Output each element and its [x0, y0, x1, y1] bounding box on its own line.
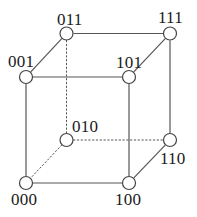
vertex-label-101: 101: [116, 54, 142, 71]
vertex-label-011: 011: [57, 11, 82, 28]
vertex-label-010: 010: [72, 118, 98, 135]
cube-edges: [26, 34, 170, 184]
cube-vertex-100: [123, 177, 136, 190]
cube-vertex-001: [20, 71, 33, 84]
vertex-label-100: 100: [115, 191, 141, 208]
cube-vertex-000: [20, 177, 33, 190]
vertex-label-110: 110: [160, 150, 185, 167]
cube-edge-011-001: [31, 39, 62, 72]
binary-cube-figure: 011111001101010110000100: [0, 0, 197, 217]
cube-vertex-111: [164, 27, 177, 40]
cube-edge-010-000: [31, 145, 62, 178]
cube-vertex-101: [123, 71, 136, 84]
vertex-label-001: 001: [8, 53, 34, 70]
cube-vertex-110: [164, 134, 177, 147]
vertex-label-000: 000: [11, 191, 37, 208]
vertex-label-111: 111: [158, 9, 183, 26]
cube-graph-svg: [0, 0, 197, 217]
